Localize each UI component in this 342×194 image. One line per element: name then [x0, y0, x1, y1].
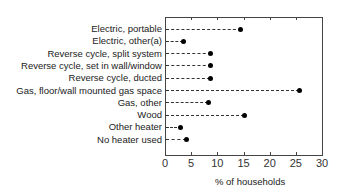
leader-line — [166, 115, 244, 116]
category-label: Reverse cycle, set in wall/window — [21, 60, 162, 71]
category-label: Gas, floor/wall mounted gas space — [16, 85, 162, 96]
x-tick — [191, 152, 192, 156]
data-point — [181, 39, 186, 44]
category-label: Reverse cycle, split system — [47, 48, 162, 59]
data-point — [297, 88, 302, 93]
category-label: Electric, portable — [91, 23, 162, 34]
category-label: Electric, other(a) — [92, 35, 162, 46]
data-point — [238, 27, 243, 32]
x-tick-top — [191, 17, 192, 20]
x-tick-top — [244, 17, 245, 20]
data-point — [206, 100, 211, 105]
x-tick-label: 15 — [234, 157, 254, 169]
x-tick-top — [165, 17, 166, 20]
x-tick — [165, 152, 166, 156]
x-tick-top — [296, 17, 297, 20]
x-tick-label: 5 — [181, 157, 201, 169]
plot-area — [165, 17, 323, 156]
x-tick-top — [270, 17, 271, 20]
leader-line — [166, 29, 241, 30]
leader-line — [166, 78, 210, 79]
x-tick-label: 20 — [260, 157, 280, 169]
x-tick — [270, 152, 271, 156]
x-tick — [244, 152, 245, 156]
x-tick-label: 25 — [286, 157, 306, 169]
data-point — [184, 137, 189, 142]
category-label: Other heater — [109, 121, 162, 132]
category-label: Wood — [137, 109, 162, 120]
category-label: Gas, other — [118, 97, 162, 108]
x-tick-label: 10 — [207, 157, 227, 169]
x-tick-top — [217, 17, 218, 20]
x-tick-label: 0 — [155, 157, 175, 169]
x-axis-title: % of households — [215, 176, 285, 187]
leader-line — [166, 90, 299, 91]
x-tick — [217, 152, 218, 156]
x-tick — [296, 152, 297, 156]
category-label: Reverse cycle, ducted — [69, 72, 162, 83]
leader-line — [166, 53, 211, 54]
leader-line — [166, 102, 208, 103]
x-tick-top — [322, 17, 323, 20]
x-tick — [322, 152, 323, 156]
leader-line — [166, 65, 211, 66]
data-point — [208, 76, 213, 81]
category-label: No heater used — [97, 134, 162, 145]
x-tick-label: 30 — [312, 157, 332, 169]
data-point — [242, 113, 247, 118]
